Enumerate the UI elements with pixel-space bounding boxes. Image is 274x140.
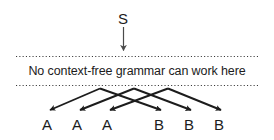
terminal-b-2: B [184, 117, 194, 132]
edge-node3-to-a3 [110, 89, 168, 111]
figure-canvas: S No context-free grammar can work here … [0, 0, 274, 140]
band-caption: No context-free grammar can work here [0, 64, 274, 78]
terminal-a-1: A [42, 117, 52, 132]
edge-node1-to-a1 [50, 89, 100, 111]
start-symbol-label: S [118, 11, 128, 26]
terminal-b-3: B [214, 117, 224, 132]
terminal-a-3: A [102, 117, 112, 132]
edge-node3-to-b3 [168, 89, 221, 111]
terminal-a-2: A [72, 117, 82, 132]
terminal-b-1: B [154, 117, 164, 132]
edge-node2-to-b2 [134, 89, 191, 111]
